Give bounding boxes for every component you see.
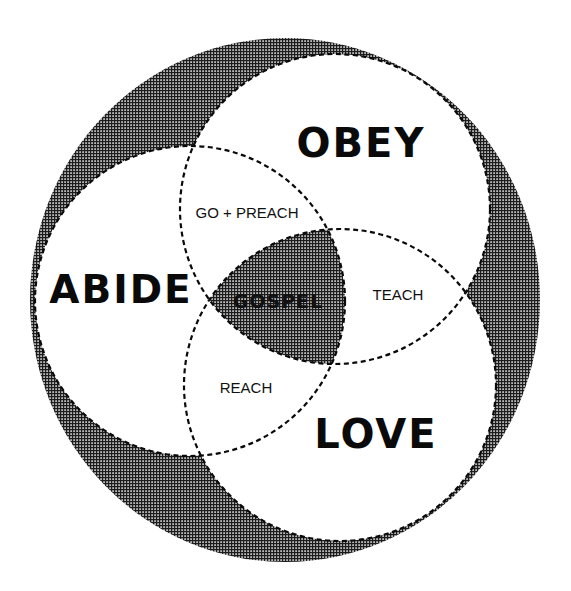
venn-diagram: OBEY ABIDE LOVE GO + PREACH TEACH REACH … <box>0 0 571 591</box>
label-abide: ABIDE <box>49 267 192 312</box>
label-obey: OBEY <box>297 120 426 166</box>
label-love: LOVE <box>314 411 437 457</box>
label-go-preach: GO + PREACH <box>196 204 299 221</box>
label-gospel: GOSPEL <box>233 290 323 312</box>
label-teach: TEACH <box>373 286 424 303</box>
label-reach: REACH <box>220 379 273 396</box>
